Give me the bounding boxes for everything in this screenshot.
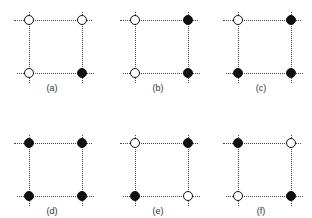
top-left-node-filled (24, 138, 34, 148)
top-right-node-filled (183, 15, 193, 25)
bottom-right-node-filled (286, 191, 296, 201)
panel-b: (b) (106, 0, 210, 109)
top-left-node-open (24, 15, 34, 25)
plaquette-diagram: (a)(b)(c)(d)(e)(f) (0, 0, 312, 218)
top-right-node-filled (77, 138, 87, 148)
top-left-node-filled (233, 138, 243, 148)
top-left-node-open (130, 15, 140, 25)
panel-label: (b) (143, 83, 173, 93)
panel-f: (f) (209, 123, 312, 218)
bottom-left-node-open (24, 68, 34, 78)
panel-label: (c) (246, 83, 276, 93)
bottom-right-node-filled (77, 68, 87, 78)
panel-label: (f) (246, 206, 276, 216)
bottom-left-node-filled (130, 191, 140, 201)
bottom-right-node-filled (183, 68, 193, 78)
bottom-right-node-filled (77, 191, 87, 201)
bottom-left-node-filled (233, 68, 243, 78)
bottom-right-node-filled (286, 68, 296, 78)
top-right-node-open (286, 138, 296, 148)
top-right-node-filled (183, 138, 193, 148)
top-left-node-open (233, 15, 243, 25)
bottom-left-node-filled (24, 191, 34, 201)
top-right-node-filled (286, 15, 296, 25)
panel-label: (a) (37, 83, 67, 93)
panel-e: (e) (106, 123, 210, 218)
bottom-left-node-open (130, 68, 140, 78)
bottom-right-node-open (183, 191, 193, 201)
bottom-left-node-open (233, 191, 243, 201)
panel-c: (c) (209, 0, 312, 109)
panel-label: (d) (37, 206, 67, 216)
panel-a: (a) (0, 0, 104, 109)
top-left-node-open (130, 138, 140, 148)
panel-d: (d) (0, 123, 104, 218)
top-right-node-open (77, 15, 87, 25)
panel-label: (e) (143, 206, 173, 216)
